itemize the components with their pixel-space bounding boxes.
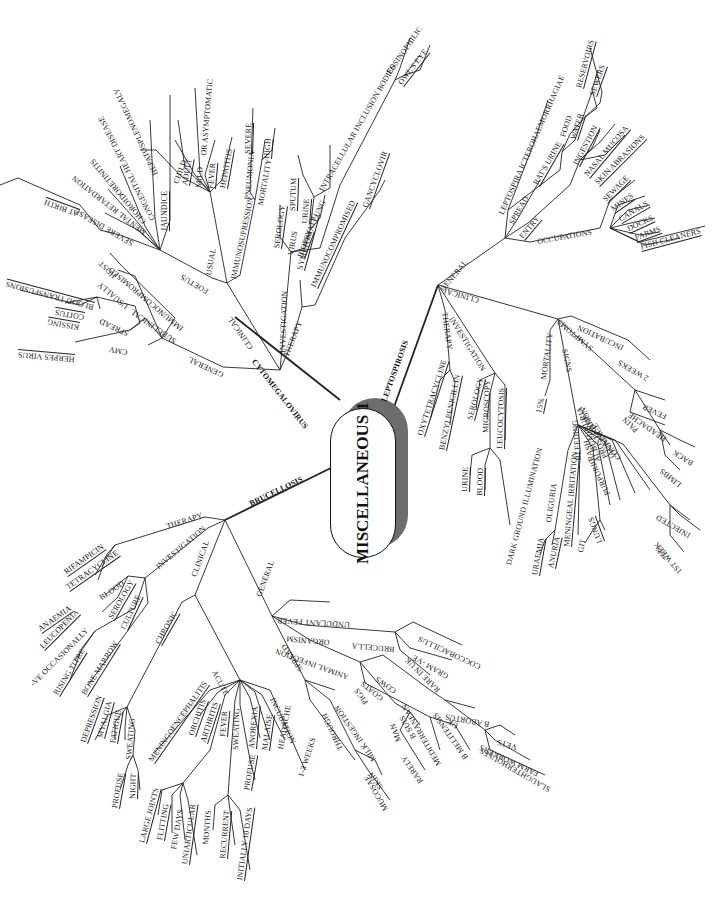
cmv-sputum: SPUTUM (289, 178, 299, 211)
cmv-jaundice: JAUNDICE (161, 191, 170, 231)
bru-acute-sweating: SWEATING (232, 708, 241, 750)
cmv-severe: SEVERE (244, 123, 254, 154)
cmv-high: HIGH (263, 138, 274, 159)
bru-night: NIGHT (129, 773, 139, 799)
central-topic-node[interactable]: MISCELLANEOUS 1 (330, 408, 400, 558)
lepto-urine: URINE (461, 467, 471, 492)
lepto-blood: BLOOD (476, 468, 486, 496)
central-topic-title: MISCELLANEOUS 1 (353, 402, 373, 564)
